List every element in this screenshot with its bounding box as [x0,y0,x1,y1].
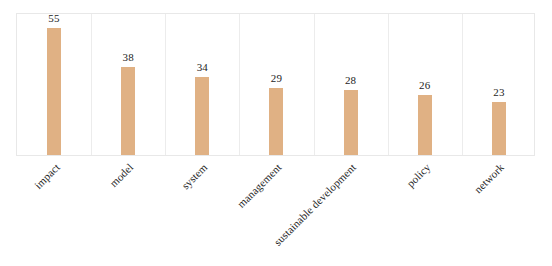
bar-panel: 38 [91,14,165,155]
category-label: impact [31,161,61,191]
bar-value-label: 23 [493,86,504,98]
bar-panel: 26 [388,14,462,155]
category-tick: system [164,157,238,266]
category-tick: impact [16,157,90,266]
bar-value-label: 29 [271,72,282,84]
bar-panel: 34 [165,14,239,155]
bar[interactable] [492,102,506,155]
category-label: model [107,161,135,189]
bar-value-label: 34 [197,61,208,73]
category-tick: model [90,157,164,266]
category-label: network [472,161,506,195]
bar-value-label: 38 [123,51,134,63]
bar-value-label: 55 [48,12,59,24]
bar-panel: 29 [239,14,313,155]
bar-chart: 55383429282623 impactmodelsystemmanageme… [0,0,552,266]
bar[interactable] [195,77,209,155]
bar[interactable] [344,90,358,155]
bar[interactable] [269,88,283,155]
bar-value-label: 28 [345,74,356,86]
category-label: policy [404,161,432,189]
category-label: system [179,161,210,192]
bar-value-label: 26 [419,79,430,91]
bar-panel: 55 [17,14,91,155]
category-label: management [235,161,284,210]
bar[interactable] [47,28,61,155]
bar[interactable] [121,67,135,155]
bar-panel: 28 [314,14,388,155]
bar[interactable] [418,95,432,155]
plot-area: 55383429282623 [16,13,535,156]
category-axis: impactmodelsystemmanagementsustainable d… [16,157,535,266]
category-tick: sustainable development [313,157,387,266]
category-tick: policy [387,157,461,266]
bar-panel: 23 [462,14,536,155]
category-tick: network [461,157,535,266]
